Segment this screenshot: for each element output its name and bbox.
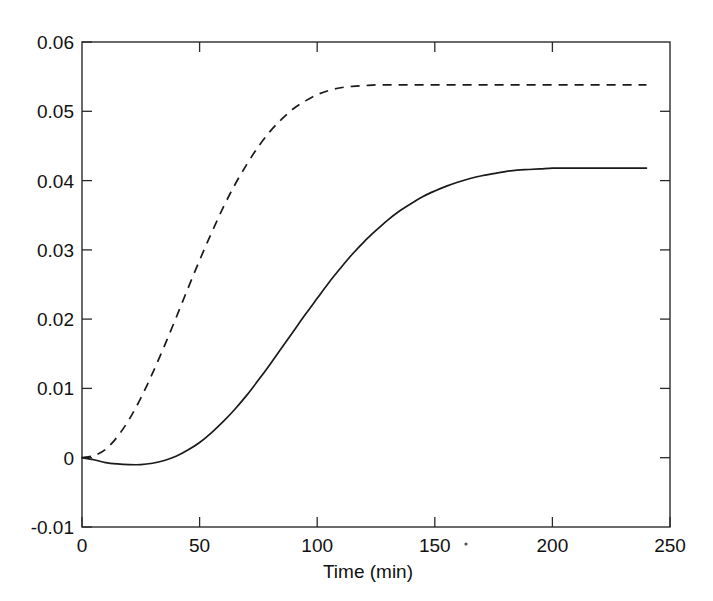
x-tick-label-0: 0 bbox=[77, 535, 88, 556]
x-axis-ticks bbox=[82, 517, 670, 527]
y-tick-label-0.04: 0.04 bbox=[37, 171, 74, 192]
y-axis-ticks-right bbox=[660, 111, 670, 457]
x-tick-label-50: 50 bbox=[189, 535, 210, 556]
x-tick-label-150: 150 bbox=[419, 535, 451, 556]
x-tick-label-100: 100 bbox=[301, 535, 333, 556]
y-axis-ticks bbox=[82, 42, 92, 527]
y-tick-label-0.01: 0.01 bbox=[37, 378, 74, 399]
x-tick-label-250: 250 bbox=[654, 535, 686, 556]
y-tick-label--0.01: -0.01 bbox=[31, 517, 74, 538]
scan-speck bbox=[464, 542, 467, 545]
chart-figure: 0.06 0.05 0.04 0.03 0.02 0.01 0 -0.01 0 … bbox=[0, 0, 713, 601]
line-chart: 0.06 0.05 0.04 0.03 0.02 0.01 0 -0.01 0 … bbox=[0, 0, 713, 601]
x-axis-title: Time (min) bbox=[323, 561, 413, 582]
plot-frame bbox=[82, 42, 670, 527]
y-tick-label-0: 0 bbox=[63, 448, 74, 469]
series-solid-curve bbox=[82, 168, 646, 465]
y-tick-label-0.03: 0.03 bbox=[37, 240, 74, 261]
series-dashed-curve bbox=[82, 85, 646, 458]
x-axis-ticks-top bbox=[200, 42, 553, 52]
y-tick-label-0.02: 0.02 bbox=[37, 309, 74, 330]
y-tick-label-0.06: 0.06 bbox=[37, 32, 74, 53]
y-tick-label-0.05: 0.05 bbox=[37, 101, 74, 122]
x-tick-label-200: 200 bbox=[537, 535, 569, 556]
